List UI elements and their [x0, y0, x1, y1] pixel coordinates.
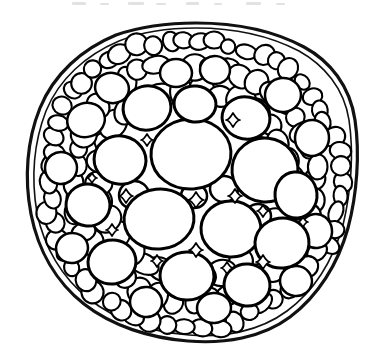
figure-root	[0, 0, 390, 364]
cross-section-drawing	[0, 0, 390, 364]
parenchyma-cell	[294, 119, 330, 157]
parenchyma-cell	[160, 59, 192, 87]
parenchyma-cell-large	[200, 199, 263, 258]
cortex-cell	[308, 154, 328, 180]
parenchyma-cell-large	[159, 251, 215, 301]
